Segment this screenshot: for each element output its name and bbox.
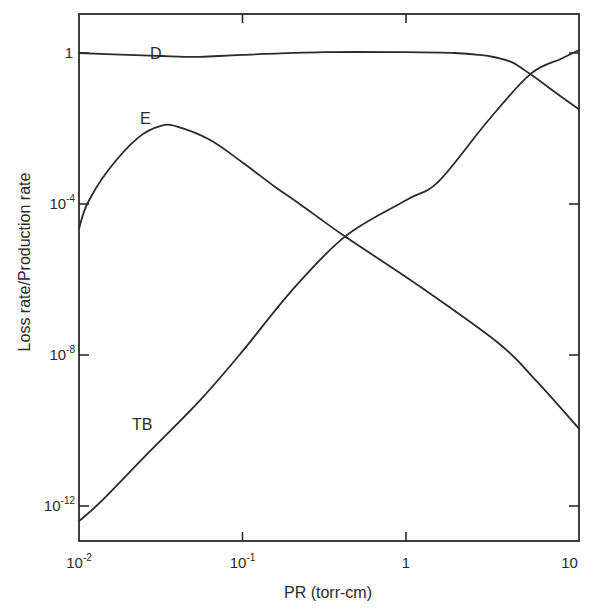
- curve-tb: [79, 50, 579, 521]
- y-tick-label: 10-8: [49, 344, 75, 363]
- y-axis-title: Loss rate/Production rate: [16, 173, 33, 352]
- curve-label-e: E: [140, 110, 151, 127]
- axis-ticks: [79, 14, 579, 541]
- x-tick-label: 10: [561, 554, 578, 571]
- plot-frame: [79, 14, 579, 541]
- loss-rate-chart: 110-410-810-1210-210-1110 D E TB PR (tor…: [0, 0, 596, 615]
- y-tick-label: 10-12: [44, 495, 76, 514]
- curve-label-tb: TB: [132, 416, 152, 433]
- curve-e: [79, 125, 579, 429]
- y-tick-label: 10-4: [49, 193, 75, 212]
- x-tick-label: 1: [402, 554, 410, 571]
- x-axis-title: PR (torr-cm): [284, 584, 372, 601]
- data-curves: [79, 50, 579, 521]
- x-tick-label: 10-2: [66, 552, 92, 571]
- curve-label-d: D: [150, 45, 162, 62]
- plot-border: [79, 14, 579, 541]
- x-tick-label: 10-1: [230, 552, 256, 571]
- axis-tick-labels: 110-410-810-1210-210-1110: [44, 44, 578, 571]
- y-tick-label: 1: [65, 44, 73, 61]
